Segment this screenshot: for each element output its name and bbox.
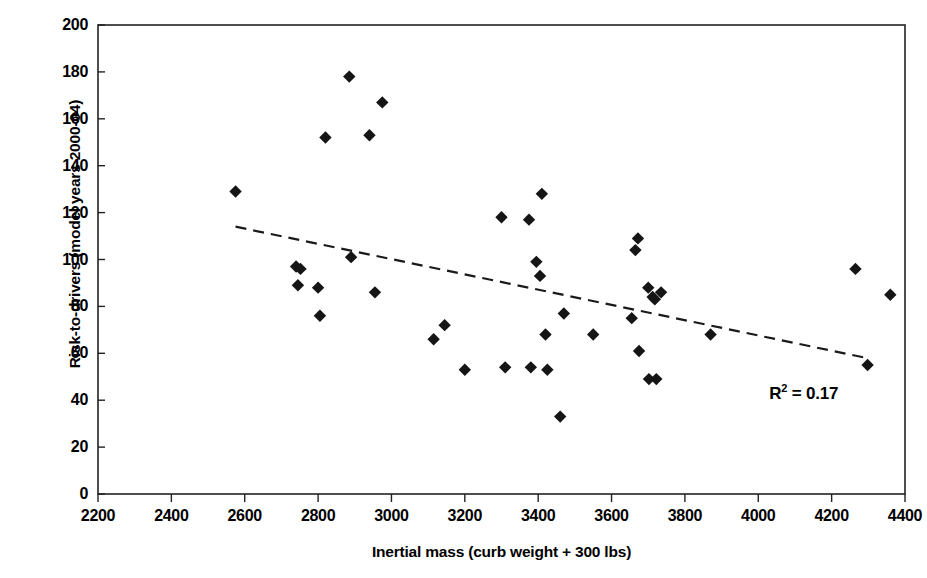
x-tick-label: 2800 bbox=[283, 508, 353, 524]
data-point bbox=[525, 361, 537, 373]
y-tick-label: 120 bbox=[0, 205, 88, 221]
x-axis-label: Inertial mass (curb weight + 300 lbs) bbox=[98, 543, 905, 561]
data-point bbox=[534, 270, 546, 282]
data-point bbox=[312, 281, 324, 293]
x-tick-label: 2600 bbox=[210, 508, 280, 524]
data-point bbox=[539, 328, 551, 340]
data-point bbox=[459, 364, 471, 376]
data-point bbox=[499, 361, 511, 373]
data-point bbox=[626, 312, 638, 324]
data-point bbox=[530, 256, 542, 268]
x-tick-label: 3400 bbox=[503, 508, 573, 524]
data-point bbox=[314, 310, 326, 322]
data-point bbox=[363, 129, 375, 141]
data-point bbox=[369, 286, 381, 298]
data-point bbox=[319, 131, 331, 143]
data-point bbox=[345, 251, 357, 263]
r-squared-symbol: R bbox=[769, 384, 781, 403]
data-point bbox=[427, 333, 439, 345]
data-point bbox=[633, 345, 645, 357]
y-axis-tick-marks bbox=[98, 25, 105, 494]
data-point bbox=[884, 288, 896, 300]
y-tick-label: 160 bbox=[0, 111, 88, 127]
x-axis-tick-marks bbox=[98, 494, 905, 502]
data-point bbox=[629, 244, 641, 256]
x-tick-label: 3000 bbox=[356, 508, 426, 524]
x-tick-label: 3200 bbox=[430, 508, 500, 524]
x-tick-label: 4400 bbox=[870, 508, 927, 524]
data-point bbox=[632, 232, 644, 244]
data-point bbox=[495, 211, 507, 223]
y-tick-label: 200 bbox=[0, 17, 88, 33]
x-tick-label: 4000 bbox=[723, 508, 793, 524]
data-point bbox=[554, 410, 566, 422]
x-tick-label: 3800 bbox=[650, 508, 720, 524]
y-tick-label: 0 bbox=[0, 486, 88, 502]
r-squared-annotation: R2 = 0.17 bbox=[769, 382, 838, 404]
y-tick-label: 20 bbox=[0, 439, 88, 455]
y-tick-label: 180 bbox=[0, 64, 88, 80]
x-tick-label: 2400 bbox=[136, 508, 206, 524]
data-point bbox=[541, 364, 553, 376]
y-tick-label: 100 bbox=[0, 252, 88, 268]
data-point bbox=[849, 263, 861, 275]
y-tick-label: 40 bbox=[0, 392, 88, 408]
data-point bbox=[650, 373, 662, 385]
y-tick-label: 140 bbox=[0, 158, 88, 174]
axis-frame bbox=[98, 25, 905, 494]
data-point bbox=[376, 96, 388, 108]
data-point bbox=[523, 213, 535, 225]
data-point bbox=[292, 279, 304, 291]
data-point bbox=[343, 70, 355, 82]
data-point bbox=[558, 307, 570, 319]
data-point bbox=[536, 188, 548, 200]
x-tick-label: 2200 bbox=[63, 508, 133, 524]
data-point bbox=[704, 328, 716, 340]
trendline bbox=[236, 227, 867, 358]
plot-border bbox=[98, 25, 905, 494]
x-tick-label: 4200 bbox=[797, 508, 867, 524]
trendline-path bbox=[236, 227, 867, 358]
data-point bbox=[438, 319, 450, 331]
r-squared-value: = 0.17 bbox=[787, 384, 838, 403]
data-point bbox=[861, 359, 873, 371]
data-point bbox=[229, 185, 241, 197]
x-tick-label: 3600 bbox=[577, 508, 647, 524]
data-point bbox=[587, 328, 599, 340]
y-tick-label: 60 bbox=[0, 345, 88, 361]
y-tick-label: 80 bbox=[0, 298, 88, 314]
